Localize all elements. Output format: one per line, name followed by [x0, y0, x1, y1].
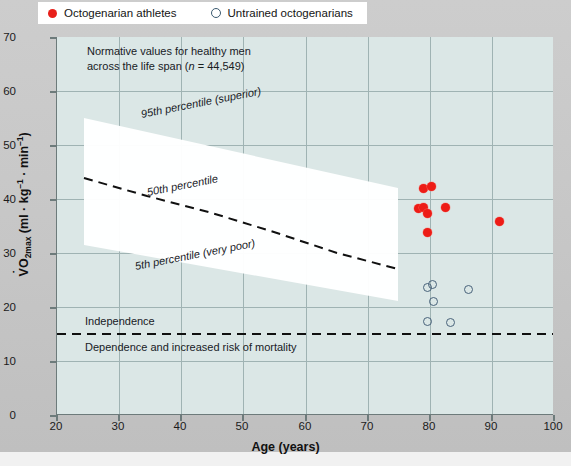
chart-legend: Octogenarian athletes Untrained octogena… — [38, 2, 367, 24]
x-tick-label-60: 60 — [285, 421, 325, 433]
label-dependence: Dependence and increased risk of mortali… — [85, 340, 297, 355]
x-tick-label-40: 40 — [160, 421, 200, 433]
data-point-athlete[interactable] — [423, 228, 432, 237]
data-point-untrained[interactable] — [423, 317, 432, 326]
data-point-untrained[interactable] — [429, 297, 438, 306]
x-tick-mark-100 — [553, 415, 555, 421]
figure-container: Octogenarian athletes Untrained octogena… — [0, 0, 571, 466]
x-tick-label-30: 30 — [98, 421, 138, 433]
data-point-athlete[interactable] — [441, 203, 450, 212]
normative-band-svg — [57, 37, 553, 414]
y-tick-label-40: 40 — [0, 194, 16, 206]
normative-note-line1: Normative values for healthy men — [87, 44, 251, 59]
data-point-athlete[interactable] — [423, 209, 432, 218]
x-tick-mark-80 — [429, 415, 431, 421]
plot-area: Normative values for healthy men across … — [57, 37, 553, 414]
x-tick-label-100: 100 — [533, 421, 571, 433]
x-tick-mark-40 — [180, 415, 182, 421]
plot-panel: Normative values for healthy men across … — [56, 37, 553, 415]
y-tick-label-70: 70 — [0, 32, 16, 44]
normative-note: Normative values for healthy men across … — [87, 44, 251, 74]
y-tick-label-0: 0 — [0, 410, 16, 422]
data-point-untrained[interactable] — [446, 318, 455, 327]
y-tick-label-30: 30 — [0, 248, 16, 260]
x-tick-mark-30 — [118, 415, 120, 421]
label-independence: Independence — [85, 314, 155, 329]
legend-item-untrained: Untrained octogenarians — [211, 7, 353, 19]
x-tick-label-50: 50 — [222, 421, 262, 433]
y-tick-label-60: 60 — [0, 86, 16, 98]
figure-bottom-bar — [0, 452, 571, 466]
x-axis-label: Age (years) — [0, 440, 571, 454]
percentile-band-5-to-95 — [84, 118, 398, 301]
x-tick-mark-60 — [305, 415, 307, 421]
data-point-athlete[interactable] — [427, 182, 436, 191]
data-point-athlete[interactable] — [495, 217, 504, 226]
normative-note-line2: across the life span (n = 44,549) — [87, 59, 251, 74]
data-point-untrained[interactable] — [428, 280, 437, 289]
x-tick-label-70: 70 — [347, 421, 387, 433]
legend-item-athletes: Octogenarian athletes — [48, 7, 177, 19]
x-tick-label-20: 20 — [36, 421, 76, 433]
filled-red-circle-icon — [48, 9, 57, 18]
data-point-untrained[interactable] — [464, 285, 473, 294]
x-tick-label-80: 80 — [409, 421, 449, 433]
open-circle-icon — [211, 8, 221, 18]
x-tick-mark-70 — [367, 415, 369, 421]
y-tick-label-50: 50 — [0, 140, 16, 152]
x-tick-label-90: 90 — [471, 421, 511, 433]
y-axis-label: VO2max (ml · kg–1 · min–1) — [15, 84, 34, 324]
y-tick-label-20: 20 — [0, 302, 16, 314]
legend-label-untrained: Untrained octogenarians — [228, 7, 353, 19]
y-tick-label-10: 10 — [0, 356, 16, 368]
legend-label-athletes: Octogenarian athletes — [64, 7, 177, 19]
x-tick-mark-20 — [56, 415, 58, 421]
x-tick-mark-90 — [491, 415, 493, 421]
x-tick-mark-50 — [242, 415, 244, 421]
